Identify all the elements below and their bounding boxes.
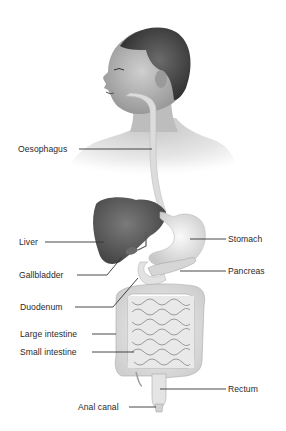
label-duodenum: Duodenum	[20, 302, 62, 312]
label-pancreas: Pancreas	[228, 266, 265, 276]
label-large-intestine: Large intestine	[20, 329, 77, 339]
anatomy-illustration	[0, 0, 286, 431]
label-rectum: Rectum	[228, 384, 258, 394]
label-anal-canal: Anal canal	[78, 402, 119, 412]
anal-canal-organ	[155, 404, 163, 412]
label-liver: Liver	[19, 237, 38, 247]
ear	[155, 70, 167, 88]
label-stomach: Stomach	[228, 234, 262, 244]
label-gallbladder: Gallbladder	[19, 270, 64, 280]
label-small-intestine: Small intestine	[20, 347, 77, 357]
small-intestine-organ	[128, 296, 194, 368]
digestive-system-diagram: Oesophagus Liver Stomach Gallbladder Pan…	[0, 0, 286, 431]
rectum-organ	[152, 374, 166, 408]
label-oesophagus: Oesophagus	[18, 144, 67, 154]
